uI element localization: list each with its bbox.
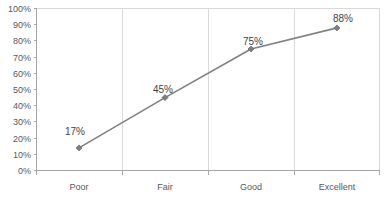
data-label-excellent: 88%: [333, 13, 353, 24]
y-axis-label-0: 0%: [18, 166, 31, 176]
y-axis-label-30: 30%: [13, 117, 31, 127]
y-axis-label-90: 90%: [13, 20, 31, 30]
x-axis-label-fair: Fair: [157, 182, 173, 192]
line-chart: 100% 90% 80% 70% 60% 50% 40% 30% 20% 10%…: [0, 0, 384, 199]
y-axis-label-60: 60%: [13, 69, 31, 79]
y-axis-label-40: 40%: [13, 101, 31, 111]
chart-container: 100% 90% 80% 70% 60% 50% 40% 30% 20% 10%…: [0, 0, 384, 199]
data-label-good: 75%: [243, 36, 263, 47]
y-axis-label-70: 70%: [13, 53, 31, 63]
y-axis-label-50: 50%: [13, 85, 31, 95]
x-axis-label-excellent: Excellent: [319, 182, 356, 192]
y-axis-label-20: 20%: [13, 134, 31, 144]
data-label-fair: 45%: [153, 84, 173, 95]
x-axis-label-poor: Poor: [69, 182, 88, 192]
y-axis-label-100: 100%: [8, 4, 31, 14]
x-axis-label-good: Good: [240, 182, 262, 192]
y-axis-label-80: 80%: [13, 36, 31, 46]
y-axis-label-10: 10%: [13, 150, 31, 160]
data-label-poor: 17%: [65, 126, 85, 137]
